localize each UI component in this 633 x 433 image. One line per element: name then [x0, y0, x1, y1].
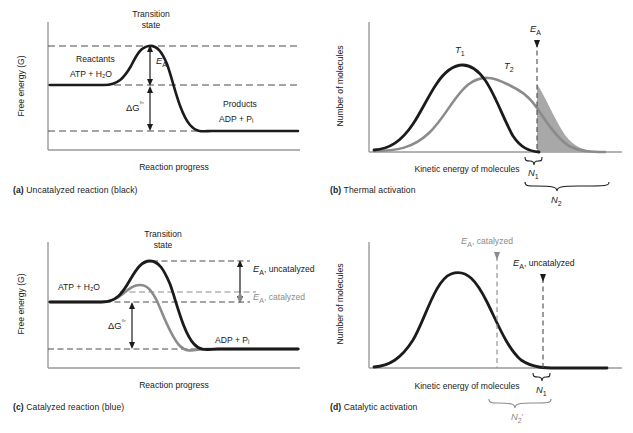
- n2-brace: [525, 182, 609, 191]
- n2-prime-brace: [489, 399, 551, 408]
- x-axis-label: Kinetic energy of molecules: [414, 164, 519, 174]
- ea-catalyzed-rest: , catalyzed: [264, 292, 305, 302]
- n1-label: N1: [528, 167, 539, 180]
- distribution-curve: [374, 273, 607, 368]
- panel-a-uncatalyzed-reaction: EA ΔG°′ Transition state Reactants ATP +…: [0, 0, 316, 216]
- panel-d-caption: (d) Catalytic activation: [330, 402, 417, 412]
- panel-a-caption: (a) Uncatalyzed reaction (black): [13, 185, 138, 195]
- n1-subscript: 1: [543, 390, 547, 397]
- ea-uncatalyzed-label: EA, uncatalyzed: [513, 257, 575, 270]
- panel-c-catalyzed-reaction: Transition state ATP + H₂O ADP + Pᵢ EA, …: [0, 216, 316, 433]
- reactants-label: ATP + H₂O: [58, 282, 100, 292]
- ea-catalyzed-label: EA, catalyzed: [253, 291, 305, 304]
- t2-subscript: 2: [510, 66, 514, 73]
- ea-catalyzed-arrowhead: [494, 252, 500, 260]
- n1-subscript: 1: [535, 173, 539, 180]
- panel-b-caption-tag: (b): [330, 185, 341, 195]
- n2-subscript: 2: [558, 200, 562, 207]
- n2-prime-mark: ′: [522, 412, 524, 421]
- delta-g-label: ΔG°′: [126, 101, 144, 113]
- ea-uncatalyzed-label: EA, uncatalyzed: [253, 263, 315, 276]
- panel-d-caption-text: Catalytic activation: [341, 402, 417, 412]
- y-axis-label: Free energy (G): [16, 55, 26, 116]
- t1-subscript: 1: [461, 50, 465, 57]
- n1-brace: [525, 157, 542, 165]
- reactants-label-line1: Reactants: [76, 54, 115, 64]
- y-axis-label: Free energy (G): [16, 273, 26, 334]
- panel-c-caption-tag: (c): [13, 402, 24, 412]
- panel-a-chart: EA ΔG°′ Transition state Reactants ATP +…: [0, 0, 316, 216]
- panel-d-caption-tag: (d): [330, 402, 341, 412]
- delta-g-symbol: ΔG: [108, 320, 122, 331]
- x-axis-label: Kinetic energy of molecules: [414, 381, 519, 391]
- products-label-line2: ADP + Pᵢ: [219, 114, 253, 124]
- transition-state-label-line1: Transition: [144, 229, 182, 239]
- panel-b-thermal-activation: EA T1 T2 N1 N2 Kinetic energy of molecul…: [317, 0, 633, 216]
- x-axis-label: Reaction progress: [139, 162, 209, 172]
- figure-container: EA ΔG°′ Transition state Reactants ATP +…: [0, 0, 633, 433]
- ea-uncatalyzed-rest: , uncatalyzed: [264, 264, 315, 274]
- products-label-line1: Products: [223, 99, 257, 109]
- t1-distribution-curve: [374, 65, 539, 152]
- panel-d-chart: EA, catalyzed EA, uncatalyzed N1 N2′ Kin…: [317, 216, 633, 433]
- panel-c-caption: (c) Catalyzed reaction (blue): [13, 402, 124, 412]
- n1-brace: [533, 373, 550, 381]
- y-axis-label: Number of molecules: [335, 263, 345, 344]
- ea-catalyzed-arrow: [237, 292, 243, 303]
- y-axis-label: Number of molecules: [335, 45, 345, 126]
- ea-catalyzed-rest: , catalyzed: [472, 236, 513, 246]
- delta-g-symbol: ΔG: [126, 102, 140, 113]
- t2-curve-label: T2: [504, 60, 514, 73]
- panel-d-catalytic-activation: EA, catalyzed EA, uncatalyzed N1 N2′ Kin…: [317, 216, 633, 433]
- panel-b-caption: (b) Thermal activation: [330, 185, 416, 195]
- delta-g-superscript: °′: [140, 101, 145, 108]
- transition-state-label-line2: state: [142, 20, 161, 30]
- reactants-label-line2: ATP + H₂O: [70, 69, 112, 79]
- activation-energy-arrowhead: [534, 40, 540, 48]
- n2-prime-label: N2′: [511, 411, 524, 424]
- panel-b-caption-text: Thermal activation: [341, 185, 415, 195]
- ea-uncatalyzed-arrowhead: [540, 274, 546, 282]
- panel-a-caption-tag: (a): [13, 185, 24, 195]
- ea-subscript: A: [162, 61, 167, 68]
- ea-uncatalyzed-rest: , uncatalyzed: [524, 258, 575, 268]
- panel-a-caption-text: Uncatalyzed reaction (black): [24, 185, 138, 195]
- t1-curve-label: T1: [455, 44, 465, 57]
- delta-g-label: ΔG°′: [108, 319, 126, 331]
- transition-state-label-line1: Transition: [132, 9, 170, 19]
- ea-subscript: A: [536, 29, 541, 36]
- shaded-n2-region: [537, 84, 599, 152]
- delta-g-arrow: [129, 302, 135, 349]
- transition-state-label-line2: state: [154, 240, 173, 250]
- activation-energy-label: EA: [530, 23, 541, 36]
- delta-g-arrow: [147, 86, 153, 131]
- products-label: ADP + Pᵢ: [215, 335, 249, 345]
- n2-label: N2: [551, 194, 562, 207]
- delta-g-superscript: °′: [122, 319, 127, 326]
- panel-c-caption-text: Catalyzed reaction (blue): [24, 402, 125, 412]
- x-axis-label: Reaction progress: [139, 380, 209, 390]
- n1-label: N1: [536, 384, 547, 397]
- panel-b-chart: EA T1 T2 N1 N2 Kinetic energy of molecul…: [317, 0, 633, 216]
- activation-energy-arrow: [147, 45, 153, 86]
- activation-energy-label: EA: [156, 55, 167, 68]
- ea-catalyzed-label: EA, catalyzed: [461, 235, 513, 248]
- panel-c-chart: Transition state ATP + H₂O ADP + Pᵢ EA, …: [0, 216, 316, 433]
